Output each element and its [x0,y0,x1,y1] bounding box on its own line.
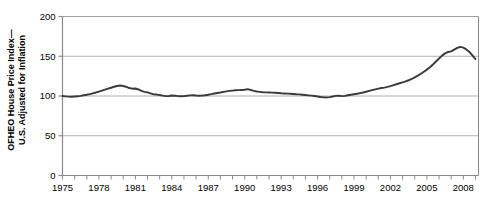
x-tick-label: 2002 [380,182,401,193]
y-tick-label: 50 [45,130,56,141]
y-axis-tick-labels: 050100150200 [40,11,56,181]
x-tick-label: 1981 [125,182,146,193]
x-axis-ticks [63,176,476,180]
y-tick-label: 0 [50,170,55,181]
chart-container: OFHEO House Price Index— U.S. Adjusted f… [0,0,496,201]
y-tick-label: 150 [40,51,56,62]
line-chart-plot: 050100150200 197519781981198419871990199… [0,0,496,201]
x-axis-tick-labels: 1975197819811984198719901993199619992002… [52,182,474,193]
x-tick-label: 1975 [52,182,73,193]
x-tick-label: 2008 [453,182,474,193]
y-tick-label: 100 [40,90,56,101]
y-tick-label: 200 [40,11,56,22]
x-tick-label: 1984 [161,182,182,193]
x-tick-label: 1993 [271,182,292,193]
x-tick-label: 1990 [234,182,255,193]
x-tick-label: 1999 [343,182,364,193]
x-tick-label: 2005 [416,182,437,193]
x-tick-label: 1987 [198,182,219,193]
x-tick-label: 1996 [307,182,328,193]
x-tick-label: 1978 [88,182,109,193]
data-series-line [63,47,476,98]
